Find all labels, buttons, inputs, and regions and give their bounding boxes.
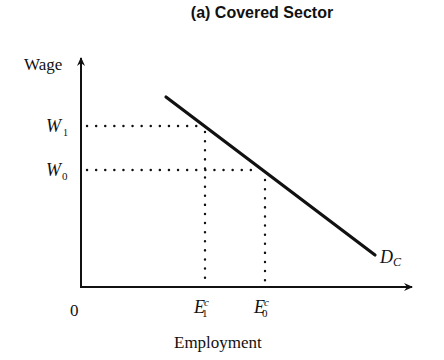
chart-canvas: Wage Employment 0 W1 W0 Ec1 Ec0 DC	[0, 0, 444, 360]
w0-label: W0	[46, 160, 68, 182]
e1c-label: Ec1	[193, 296, 209, 319]
x-axis-label: Employment	[174, 333, 262, 352]
demand-curve	[166, 97, 375, 255]
origin-label: 0	[70, 301, 79, 320]
y-axis-label: Wage	[24, 55, 62, 74]
demand-curve-label: DC	[379, 247, 402, 269]
w1-label: W1	[46, 116, 68, 138]
e0c-label: Ec0	[253, 296, 269, 319]
guide-lines	[87, 126, 265, 282]
